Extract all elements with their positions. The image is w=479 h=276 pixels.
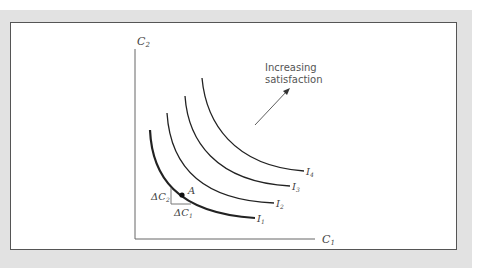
x-axis-label: C1 <box>322 233 335 247</box>
curve-i2 <box>167 113 274 203</box>
annotation-line1: Increasing <box>265 62 317 73</box>
point-a <box>179 192 184 197</box>
satisfaction-arrow <box>255 91 287 125</box>
label-i4: I4 <box>305 166 314 178</box>
point-a-label: A <box>187 185 195 196</box>
annotation-line2: satisfaction <box>265 74 323 85</box>
delta-c1-label: ΔC1 <box>173 207 193 219</box>
label-i1: I1 <box>256 213 265 225</box>
label-i3: I3 <box>291 181 300 193</box>
curve-i1 <box>150 130 255 218</box>
y-axis-label: C2 <box>137 35 150 49</box>
indifference-curve-diagram: C2 C1 I1 I2 I3 I4 A ΔC2 ΔC1 Increasing s… <box>0 0 479 276</box>
label-i2: I2 <box>275 198 284 210</box>
curve-i4 <box>202 78 304 171</box>
curve-i3 <box>185 96 290 186</box>
delta-c2-label: ΔC2 <box>150 191 170 203</box>
